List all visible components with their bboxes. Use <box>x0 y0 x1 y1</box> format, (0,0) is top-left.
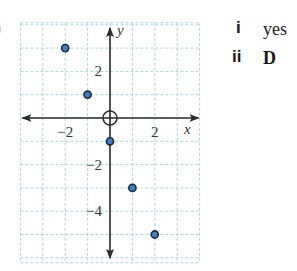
data-point <box>62 45 69 52</box>
svg-text:−2: −2 <box>57 124 73 140</box>
svg-text:2: 2 <box>151 124 159 140</box>
scatter-plot: xy −222−2−4 <box>0 0 297 271</box>
data-point <box>106 138 113 145</box>
svg-text:y: y <box>115 22 124 38</box>
svg-text:−4: −4 <box>86 203 102 219</box>
data-point <box>151 231 158 238</box>
data-point <box>84 91 91 98</box>
svg-text:2: 2 <box>95 63 103 79</box>
data-point <box>129 184 136 191</box>
svg-text:−2: −2 <box>86 157 102 173</box>
svg-text:x: x <box>183 121 191 137</box>
